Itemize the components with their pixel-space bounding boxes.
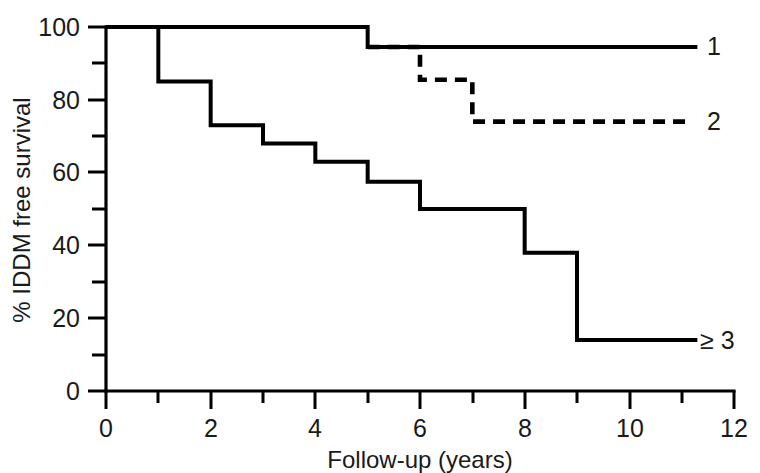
curve-label-3: ≥ 3 [700,326,735,354]
y-tick-label-40: 40 [52,231,80,259]
x-tick-label-4: 4 [308,414,322,442]
x-axis-ticks [106,391,734,409]
x-tick-label-10: 10 [616,414,644,442]
curve-series-2 [368,47,692,122]
y-axis-ticks [88,27,106,391]
x-tick-label-6: 6 [413,414,427,442]
x-axis-title: Follow-up (years) [327,446,512,473]
survival-chart-canvas: 100 80 60 40 20 0 % IDDM free survival [0,0,760,473]
x-tick-label-2: 2 [204,414,218,442]
y-tick-label-80: 80 [52,86,80,114]
curve-label-1: 1 [707,32,721,60]
curve-labels-group: 1 2 ≥ 3 [700,32,735,354]
y-tick-label-60: 60 [52,158,80,186]
x-tick-label-12: 12 [720,414,748,442]
curve-series-1 [106,27,697,47]
curve-label-2: 2 [707,107,721,135]
y-tick-label-100: 100 [38,13,80,41]
x-tick-label-8: 8 [518,414,532,442]
y-axis-title: % IDDM free survival [8,97,35,322]
y-axis-tick-labels: 100 80 60 40 20 0 [38,13,80,405]
x-axis-tick-labels: 0 2 4 6 8 10 12 [99,414,748,442]
x-tick-label-0: 0 [99,414,113,442]
curve-series-3 [106,27,697,340]
curves-group [106,27,697,340]
y-tick-label-20: 20 [52,304,80,332]
chart-figure: 100 80 60 40 20 0 % IDDM free survival [0,0,760,473]
y-tick-label-0: 0 [66,377,80,405]
